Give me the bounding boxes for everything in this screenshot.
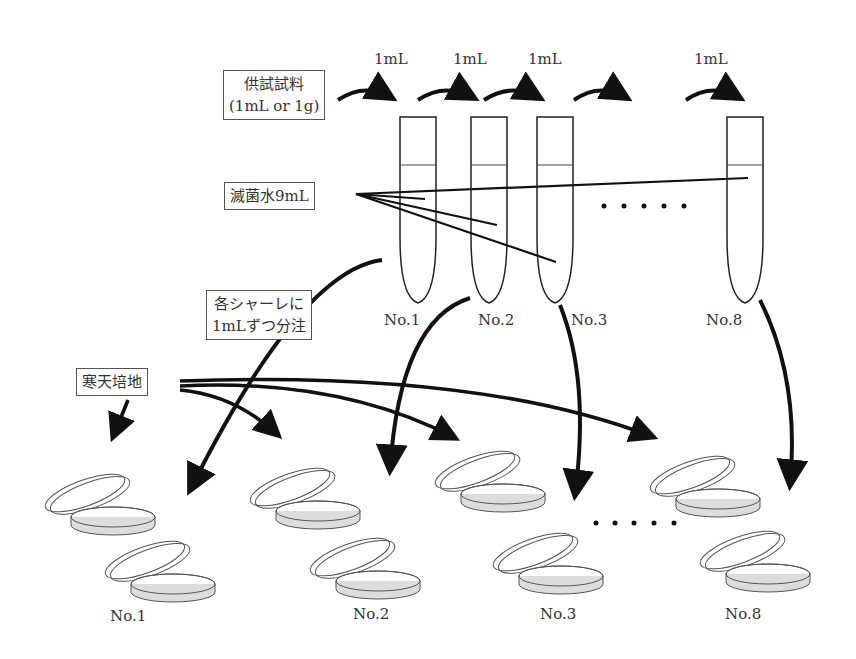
- plate-no3-b: [489, 525, 603, 594]
- transfer-arrows: [338, 90, 740, 100]
- sample-box-line1: 供試試料: [229, 73, 319, 95]
- sample-box-line2: (1mL or 1g): [229, 95, 319, 117]
- tube-label-no3: No.3: [571, 311, 607, 329]
- plate-ellipsis-dots: [594, 521, 677, 526]
- plate-no1-a: [41, 466, 155, 535]
- dispense-box-line1: 各シャーレに: [212, 293, 306, 315]
- tube-ellipsis-dots: [602, 204, 687, 209]
- tube-no3: [537, 117, 573, 303]
- plate-no8-b: [696, 523, 810, 592]
- dilution-diagram: [0, 0, 856, 659]
- transfer-label-1: 1mL: [374, 50, 408, 68]
- transfer-label-4: 1mL: [694, 50, 728, 68]
- agar-medium-box: 寒天培地: [76, 368, 148, 396]
- tube-no2: [471, 117, 507, 303]
- plate-no2-b: [306, 530, 420, 599]
- dispense-box-line2: 1mLずつ分注: [212, 315, 306, 337]
- tube-label-no1: No.1: [384, 311, 420, 329]
- plate-no2-a: [246, 460, 360, 529]
- transfer-label-3: 1mL: [528, 50, 562, 68]
- agar-arrows: [113, 379, 653, 438]
- tube-label-no8: No.8: [706, 311, 742, 329]
- transfer-label-2: 1mL: [453, 50, 487, 68]
- tube-no8: [727, 117, 763, 303]
- plate-label-no8: No.8: [725, 605, 761, 623]
- plate-label-no1: No.1: [110, 607, 146, 625]
- plate-no3-a: [431, 443, 545, 512]
- sample-box: 供試試料 (1mL or 1g): [223, 70, 325, 120]
- plate-label-no2: No.2: [353, 605, 389, 623]
- dispense-box: 各シャーレに 1mLずつ分注: [206, 290, 312, 340]
- sterile-water-box: 滅菌水9mL: [224, 182, 315, 210]
- tube-label-no2: No.2: [478, 311, 514, 329]
- plate-no1-b: [101, 533, 215, 602]
- plate-label-no3: No.3: [540, 605, 576, 623]
- plate-no8-a: [646, 448, 760, 517]
